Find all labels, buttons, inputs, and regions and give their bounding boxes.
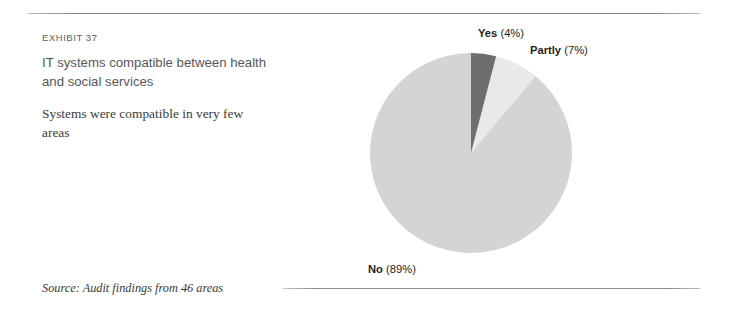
pie-slice-no [370, 53, 572, 253]
pie-label-no: No (89%) [368, 264, 416, 275]
pie-chart-svg [330, 18, 660, 280]
bottom-divider-rule [283, 288, 700, 289]
pie-slices [370, 53, 572, 253]
top-divider-rule [28, 13, 700, 14]
pie-chart: Yes (4%) Partly (7%) No (89%) [330, 18, 660, 280]
pie-label-partly-name: Partly [530, 44, 561, 56]
pie-label-no-pct: (89%) [383, 263, 416, 275]
caption-block: EXHIBIT 37 IT systems compatible between… [42, 33, 274, 143]
source-note: Source: Audit findings from 46 areas [42, 281, 223, 296]
pie-label-yes-pct: (4%) [497, 27, 524, 39]
pie-label-partly-pct: (7%) [561, 44, 588, 56]
pie-label-yes-name: Yes [478, 27, 497, 39]
pie-label-no-name: No [368, 263, 383, 275]
pie-label-partly: Partly (7%) [530, 45, 588, 56]
pie-label-yes: Yes (4%) [478, 28, 524, 39]
exhibit-page: EXHIBIT 37 IT systems compatible between… [0, 0, 736, 311]
exhibit-number-label: EXHIBIT 37 [42, 33, 274, 43]
exhibit-subtitle: Systems were compatible in very few area… [42, 104, 274, 143]
exhibit-title: IT systems compatible between health and… [42, 54, 274, 91]
